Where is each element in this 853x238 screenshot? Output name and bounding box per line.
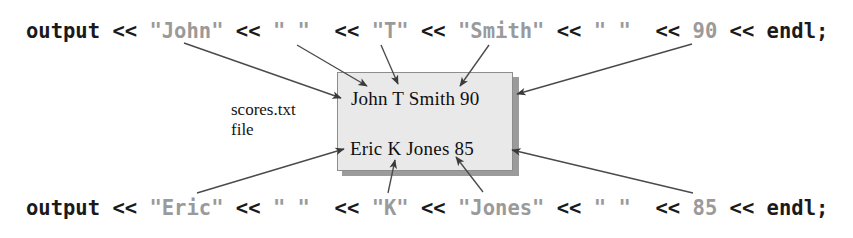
code-bottom-token-8: "Jones" (458, 196, 544, 220)
code-bottom-token-13: << endl; (717, 196, 828, 220)
code-top-token-2: "John" (149, 19, 223, 43)
code-top-token-12: 90 (693, 19, 718, 43)
code-bottom-token-11: << (631, 196, 693, 220)
arrow-90-to-box (517, 44, 692, 94)
file-name-label-line2: file (231, 120, 254, 139)
code-bottom-token-0: output (26, 196, 112, 220)
file-name-label: scores.txtfile (231, 100, 296, 140)
code-bottom-token-5: << (310, 196, 372, 220)
file-record-row-1: John T Smith 90 (351, 88, 479, 110)
file-record-row-2: Eric K Jones 85 (350, 138, 474, 160)
code-top-token-10: " " (594, 19, 631, 43)
code-bottom-token-12: 85 (693, 196, 718, 220)
code-top-token-9: << (544, 19, 593, 43)
code-top-token-0: output (26, 19, 112, 43)
figure-canvas: output << "John" << " " << "T" << "Smith… (0, 0, 853, 238)
file-box-shadow-bottom (342, 171, 519, 176)
code-top-token-1: << (112, 19, 149, 43)
code-top-token-11: << (631, 19, 693, 43)
code-line-bottom: output << "Eric" << " " << "K" << "Jones… (26, 196, 828, 220)
code-bottom-token-6: "K" (372, 196, 409, 220)
code-top-token-7: << (409, 19, 458, 43)
arrow-eric-to-box (197, 149, 344, 193)
code-line-top: output << "John" << " " << "T" << "Smith… (26, 19, 828, 43)
code-bottom-token-1: << (112, 196, 149, 220)
code-bottom-token-9: << (544, 196, 593, 220)
file-name-label-line1: scores.txt (231, 100, 296, 119)
code-top-token-5: << (310, 19, 372, 43)
code-bottom-token-3: << (224, 196, 273, 220)
code-top-token-4: " " (273, 19, 310, 43)
arrow-john-to-box (184, 43, 341, 98)
code-bottom-token-10: " " (594, 196, 631, 220)
code-top-token-3: << (224, 19, 273, 43)
file-box-shadow-right (513, 77, 519, 176)
code-top-token-13: << endl; (717, 19, 828, 43)
code-bottom-token-2: "Eric" (149, 196, 223, 220)
code-bottom-token-4: " " (273, 196, 310, 220)
code-bottom-token-7: << (409, 196, 458, 220)
code-top-token-8: "Smith" (458, 19, 544, 43)
code-top-token-6: "T" (372, 19, 409, 43)
arrow-85-to-box (512, 150, 693, 193)
